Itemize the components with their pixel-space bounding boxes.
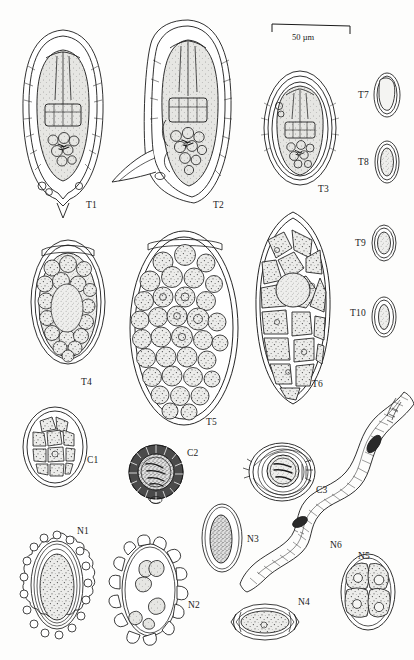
specimen-label-N5: N5 (358, 551, 370, 561)
specimen-label-T2: T2 (213, 200, 224, 210)
specimen-T7 (374, 73, 400, 117)
specimen-label-C2: C2 (187, 448, 199, 458)
specimen-N2 (109, 535, 188, 645)
specimen-T3 (261, 71, 339, 185)
specimen-N3 (202, 504, 242, 572)
specimen-T10 (372, 297, 396, 337)
specimen-T5 (130, 231, 238, 425)
specimen-label-T9: T9 (355, 238, 366, 248)
specimen-label-C3: C3 (316, 485, 328, 495)
specimen-label-T4: T4 (81, 377, 92, 387)
specimen-T8 (375, 141, 399, 183)
specimen-label-T8: T8 (358, 157, 369, 167)
specimen-C1 (23, 407, 87, 487)
specimen-T2 (112, 20, 232, 203)
specimen-T6 (256, 212, 330, 404)
illustration-plate: 50 µm T1 T2 T3 T4 T5 T6 T7 T8 T9 T10 C1 … (0, 0, 414, 660)
specimen-label-N6: N6 (330, 540, 342, 550)
specimen-label-N1: N1 (77, 526, 89, 536)
specimen-T4 (31, 240, 105, 364)
specimen-C2 (129, 445, 183, 504)
specimen-label-N3: N3 (247, 534, 259, 544)
specimen-N5 (341, 554, 395, 630)
scale-bar-label: 50 µm (292, 32, 314, 42)
specimen-label-N4: N4 (298, 597, 310, 607)
specimen-label-T7: T7 (358, 90, 369, 100)
specimen-label-C1: C1 (87, 455, 99, 465)
specimen-label-T10: T10 (350, 308, 366, 318)
specimen-C3 (243, 443, 315, 501)
specimen-label-N2: N2 (188, 600, 200, 610)
specimen-N4 (231, 604, 299, 640)
specimen-label-T5: T5 (206, 417, 217, 427)
plate-artwork (0, 0, 414, 660)
specimen-T9 (372, 225, 396, 261)
specimen-label-T6: T6 (312, 379, 323, 389)
specimen-T1 (23, 30, 103, 218)
specimen-label-T1: T1 (86, 200, 97, 210)
specimen-label-T3: T3 (318, 184, 329, 194)
specimen-N1 (20, 531, 95, 639)
